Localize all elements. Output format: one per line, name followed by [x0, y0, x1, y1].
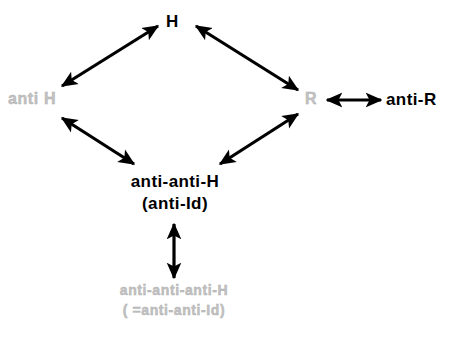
- node-anti-anti-h-label-line2: (anti-Id): [110, 194, 240, 214]
- edge-group: [62, 26, 381, 278]
- node-anti-h-label: anti H: [8, 90, 56, 109]
- node-anti-anti-anti-h: anti-anti-anti-H ( =anti-anti-Id): [88, 282, 260, 318]
- idiotype-network-diagram: H anti H R anti-R anti-anti-H (anti-Id) …: [0, 0, 468, 352]
- node-h: H: [166, 12, 179, 32]
- node-r-label: R: [305, 90, 317, 109]
- node-anti-r-label: anti-R: [386, 90, 437, 110]
- node-anti-r: anti-R: [386, 90, 437, 110]
- node-anti-anti-h: anti-anti-H (anti-Id): [110, 172, 240, 214]
- node-anti-anti-anti-h-label-line2: ( =anti-anti-Id): [88, 302, 260, 319]
- edge-anti-h-to-h: [62, 26, 158, 86]
- edge-anti-anti-h-to-r: [220, 114, 298, 164]
- node-h-label: H: [166, 12, 179, 32]
- node-r: R: [305, 90, 317, 109]
- node-anti-anti-h-label-line1: anti-anti-H: [110, 172, 240, 192]
- node-anti-h: anti H: [8, 90, 56, 109]
- edge-anti-h-to-anti-anti-h: [62, 118, 134, 164]
- node-anti-anti-anti-h-label-line1: anti-anti-anti-H: [88, 282, 260, 299]
- edge-h-to-r: [196, 26, 298, 90]
